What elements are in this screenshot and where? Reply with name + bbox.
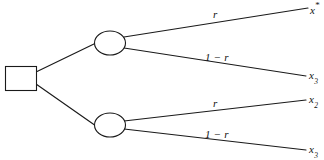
decision-tree-diagram: r 1 − r r 1 − r x* x3 x2 x3 [0, 0, 324, 160]
branch-label-upper-top: r [213, 9, 217, 20]
outcome-label-1: x* [310, 2, 319, 16]
chance-node-upper-circle [95, 31, 126, 55]
outcome-label-2: x3 [309, 70, 318, 84]
outcome-2-subscript: 3 [314, 77, 318, 86]
branch-label-lower-top: r [213, 98, 217, 109]
tree-graphics [0, 0, 324, 160]
outcome-3-subscript: 2 [314, 101, 318, 110]
edge-decision-to-upper-chance [36, 43, 96, 72]
branch-label-lower-bottom: 1 − r [205, 129, 229, 140]
branch-label-upper-bottom: 1 − r [205, 52, 229, 63]
decision-node-square [6, 67, 37, 91]
outcome-label-3: x2 [309, 94, 318, 108]
chance-node-lower-circle [95, 113, 126, 137]
outcome-1-superscript: * [315, 0, 320, 10]
edge-decision-to-lower-chance [36, 84, 96, 126]
outcome-4-subscript: 3 [314, 151, 318, 160]
outcome-label-4: x3 [309, 144, 318, 158]
